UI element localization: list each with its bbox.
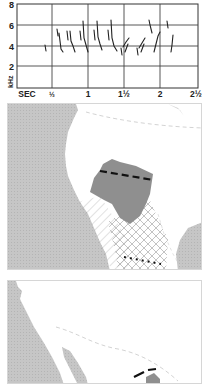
y-tick-8: 8 [9, 0, 14, 10]
x-tick-1: 1 [86, 89, 91, 99]
range-map-1 [7, 103, 202, 270]
x-tick-2-half: 2½ [190, 89, 202, 99]
y-axis-label: kHz [7, 75, 14, 88]
range-map-2 [7, 280, 202, 384]
sonogram-chart: 8 6 4 2 kHz SEC ½ 1 1½ 2 2½ [0, 0, 202, 100]
x-tick-1-half: 1½ [118, 89, 130, 99]
x-tick-2: 2 [158, 89, 163, 99]
y-tick-2: 2 [9, 62, 14, 72]
x-tick-half: ½ [49, 91, 55, 98]
x-axis-label: SEC [18, 89, 35, 99]
y-tick-6: 6 [9, 21, 14, 31]
y-tick-4: 4 [9, 42, 14, 52]
